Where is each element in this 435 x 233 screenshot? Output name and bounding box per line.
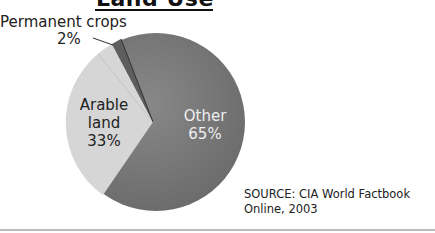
leader-line bbox=[93, 38, 113, 45]
bottom-divider bbox=[0, 229, 435, 231]
label-arable-2: land bbox=[75, 114, 133, 132]
label-permanent-crops: Permanent crops bbox=[0, 13, 127, 31]
source-line-1: SOURCE: CIA World Factbook bbox=[244, 187, 410, 202]
source-line-2: Online, 2003 bbox=[244, 202, 410, 217]
label-arable-1: Arable bbox=[75, 96, 133, 114]
label-arable-pct: 33% bbox=[75, 132, 133, 150]
label-other-pct: 65% bbox=[175, 125, 235, 143]
source-note: SOURCE: CIA World Factbook Online, 2003 bbox=[244, 187, 410, 217]
label-other: Other bbox=[175, 107, 235, 125]
label-permanent-crops-pct: 2% bbox=[57, 30, 81, 48]
